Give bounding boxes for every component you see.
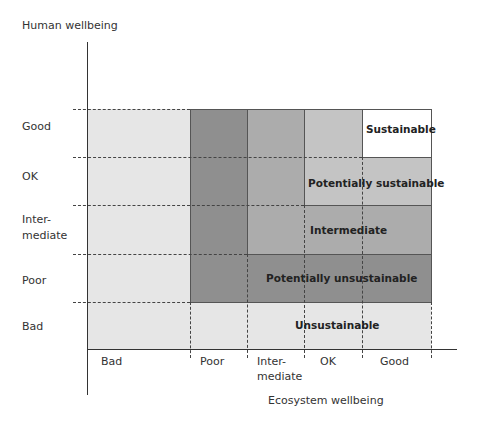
zone-border <box>431 109 432 302</box>
y-level-good: Good <box>22 120 51 133</box>
label-potentially-sustainable: Potentially sustainable <box>308 177 444 190</box>
label-unsustainable: Unsustainable <box>295 319 379 332</box>
grid-line-eco-intermediate <box>247 254 248 358</box>
y-level-ok: OK <box>22 170 38 183</box>
grid-line-intermediate <box>73 205 304 206</box>
label-intermediate: Intermediate <box>310 224 387 237</box>
grid-line-ok <box>73 157 362 158</box>
x-axis-title: Ecosystem wellbeing <box>268 394 384 407</box>
x-level-ok: OK <box>320 355 336 368</box>
zone-border <box>190 109 431 110</box>
label-sustainable: Sustainable <box>366 123 436 136</box>
zone-border <box>247 109 248 254</box>
y-level-intermediate-1: Inter- <box>22 213 51 226</box>
y-level-bad: Bad <box>22 320 43 333</box>
x-level-poor: Poor <box>200 355 224 368</box>
x-axis <box>87 349 457 350</box>
x-level-good: Good <box>380 355 409 368</box>
x-level-intermediate-2: mediate <box>257 370 302 383</box>
zone-border <box>304 205 431 206</box>
zone-border <box>362 109 363 157</box>
grid-line-good <box>73 109 190 110</box>
grid-line-bad <box>73 302 190 303</box>
zone-border <box>247 254 431 255</box>
y-level-poor: Poor <box>22 274 46 287</box>
y-level-intermediate-2: mediate <box>22 229 67 242</box>
grid-line-poor <box>73 254 247 255</box>
x-level-bad: Bad <box>101 355 122 368</box>
x-level-intermediate-1: Inter- <box>257 355 286 368</box>
zone-unsustainable-left <box>88 109 190 349</box>
label-potentially-unsustainable: Potentially unsustainable <box>266 272 417 285</box>
column-ok <box>304 109 362 157</box>
zone-border <box>362 157 431 158</box>
y-axis <box>87 42 88 395</box>
zone-border <box>190 302 431 303</box>
y-axis-title: Human wellbeing <box>22 19 118 32</box>
